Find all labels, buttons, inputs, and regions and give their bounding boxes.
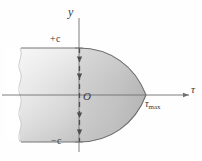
lower-fiber-label: −c — [51, 136, 62, 146]
origin-label: O — [83, 91, 91, 102]
upper-fiber-label: +c — [50, 34, 61, 44]
tau-axis-arrowhead — [183, 93, 189, 97]
diagram-canvas — [0, 0, 202, 161]
y-axis-label: y — [68, 6, 73, 18]
shear-stress-diagram: y τ +c −c O τmax — [0, 0, 202, 161]
tau-max-subscript: max — [149, 103, 161, 111]
tau-max-label: τmax — [145, 99, 160, 109]
tau-axis-label: τ — [191, 84, 195, 95]
